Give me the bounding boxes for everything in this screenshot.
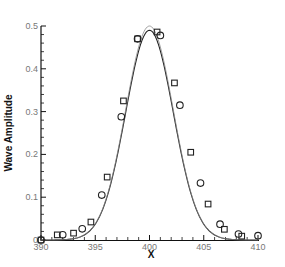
square-marker [104,174,110,180]
square-marker [121,98,127,104]
y-axis-title: Wave Amplitude [3,94,14,171]
circle-marker [197,180,204,187]
circle-marker [98,192,105,199]
markers [38,29,262,243]
square-marker [172,80,178,86]
x-axis-title: X [148,249,155,260]
circle-marker [177,102,184,109]
y-tick-label: 0.2 [25,149,38,159]
circle-marker [79,226,86,233]
axes: 00.10.20.30.40.5 390395400405410 [25,21,265,252]
circle-marker [118,113,125,120]
y-ticks: 00.10.20.30.40.5 [25,21,46,245]
y-tick-label: 0.5 [25,21,38,31]
x-tick-label: 410 [250,242,265,252]
square-marker [205,201,211,207]
square-marker [71,230,77,236]
wave-amplitude-chart: 00.10.20.30.40.5 390395400405410 Wave Am… [0,0,285,267]
y-tick-label: 0.4 [25,64,38,74]
square-marker [188,149,194,155]
y-tick-label: 0.1 [25,192,38,202]
curve-line [41,30,258,240]
x-tick-label: 405 [196,242,211,252]
square-marker [222,227,228,233]
y-tick-label: 0.3 [25,107,38,117]
curve-line [41,26,258,240]
x-tick-label: 395 [88,242,103,252]
curves [41,26,258,240]
square-marker [88,219,94,225]
